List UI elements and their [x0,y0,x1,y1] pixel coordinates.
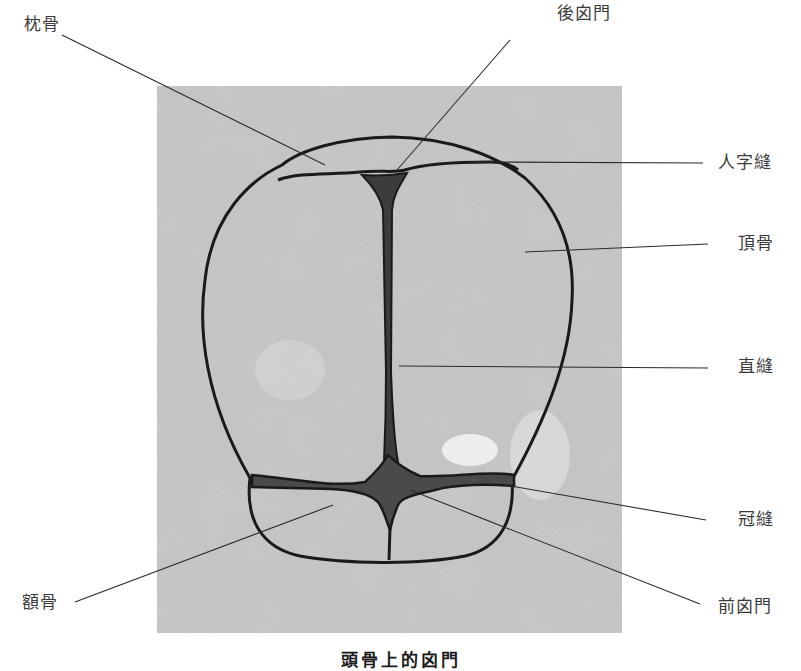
label-posterior-fontanelle: 後囟門 [557,3,611,23]
label-occipital-bone: 枕骨 [24,14,60,34]
label-lambdoid-suture: 人字縫 [718,152,772,172]
label-coronal-suture: 冠縫 [738,509,774,529]
frontal-suture [389,528,390,560]
label-anterior-fontanelle: 前囟門 [718,596,772,616]
label-parietal-bone: 頂骨 [738,233,774,253]
figure-caption: 頭骨上的囟門 [0,646,801,671]
label-frontal-bone: 額骨 [22,592,58,612]
label-sagittal-suture: 直縫 [738,356,774,376]
